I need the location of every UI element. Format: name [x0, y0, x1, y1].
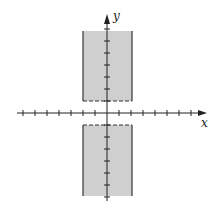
y-axis-label: y	[112, 9, 120, 23]
x-axis-label: x	[201, 116, 208, 130]
coordinate-plane: x y	[0, 0, 222, 211]
y-axis-arrow-icon	[104, 14, 110, 24]
